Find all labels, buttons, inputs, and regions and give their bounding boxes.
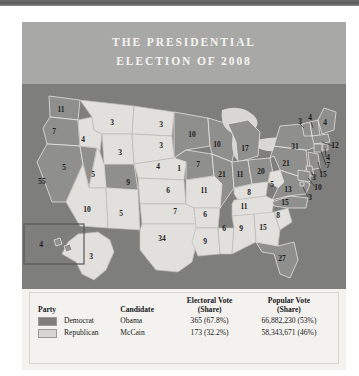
legend-header-popular: Popular Vote (Share): [246, 295, 332, 315]
state-votes-oh: 20: [257, 168, 265, 176]
state-votes-or: 7: [52, 128, 56, 136]
state-votes-mt: 3: [110, 119, 114, 127]
state-votes-md: 10: [314, 184, 322, 192]
legend-header-row: Party Candidate Electoral Vote (Share) P…: [36, 295, 332, 315]
state-votes-ok: 7: [173, 208, 177, 216]
state-votes-nj: 15: [319, 171, 327, 179]
state-votes-ne: 4: [156, 163, 160, 171]
title-line-1: THE PRESIDENTIAL: [112, 36, 256, 48]
state-votes-nc: 15: [281, 199, 289, 207]
state-md: [298, 170, 310, 182]
state-votes-az: 10: [83, 206, 91, 214]
state-votes-ca: 55: [38, 178, 46, 186]
legend-candidate-obama: Obama: [118, 315, 173, 327]
legend-header-popular-line2: (Share): [277, 305, 301, 314]
legend-popular-republican: 58,343,671 (46%): [246, 327, 332, 339]
democrat-swatch-cell: [36, 315, 62, 327]
legend-popular-democrat: 66,882,230 (53%): [246, 315, 332, 327]
legend-electoral-republican: 173 (32.2%): [173, 327, 246, 339]
legend-party-republican: Republican: [62, 327, 118, 339]
state-votes-ms: 6: [222, 225, 226, 233]
legend-header-electoral-line1: Electoral Vote: [187, 296, 233, 305]
state-votes-ga: 15: [259, 224, 267, 232]
state-votes-hi: 4: [39, 241, 43, 249]
state-votes-la: 9: [203, 238, 207, 246]
state-votes-wi: 10: [213, 141, 221, 149]
state-votes-ny: 31: [291, 143, 299, 151]
state-votes-wy: 3: [118, 149, 122, 157]
figure-header: THE PRESIDENTIAL ELECTION OF 2008: [22, 22, 346, 84]
state-votes-nv: 5: [62, 164, 66, 172]
state-votes-ak: 3: [89, 253, 93, 261]
legend-header-party: Party: [36, 295, 118, 315]
us-states-map: .d{fill:#8f8f8d;stroke:#f0eeea;stroke-wi…: [22, 84, 346, 289]
state-or: [43, 117, 80, 146]
page-title: THE PRESIDENTIAL ELECTION OF 2008: [22, 33, 346, 71]
state-votes-ma: 12: [331, 142, 339, 150]
state-votes-co: 9: [126, 179, 130, 187]
legend-candidate-mccain: McCain: [118, 327, 173, 339]
legend-party-democrat: Democrat: [62, 315, 118, 327]
state-votes-de: 3: [312, 174, 316, 182]
state-votes-me: 4: [323, 119, 327, 127]
state-votes-wa: 11: [57, 106, 64, 114]
title-line-2: ELECTION OF 2008: [22, 52, 346, 71]
state-ks: [138, 178, 186, 204]
state-votes-in: 11: [236, 171, 243, 179]
legend-header-electoral: Electoral Vote (Share): [173, 295, 246, 315]
state-votes-sd: 3: [159, 142, 163, 150]
table-row: Republican McCain 173 (32.2%) 58,343,671…: [36, 327, 332, 339]
state-dc: [300, 182, 304, 186]
state-votes-vt: 3: [298, 118, 302, 126]
state-votes-dc: 3: [308, 194, 312, 202]
state-votes-ct: 7: [326, 162, 330, 170]
state-votes-nm: 5: [119, 210, 123, 218]
election-map-figure: THE PRESIDENTIAL ELECTION OF 2008 .d{fil…: [22, 22, 346, 370]
state-votes-tn: 11: [240, 203, 247, 211]
state-votes-ut: 5: [91, 171, 95, 179]
table-row: Democrat Obama 365 (67.8%) 66,882,230 (5…: [36, 315, 332, 327]
legend-header-electoral-line2: (Share): [198, 305, 222, 314]
state-votes-id: 4: [81, 136, 85, 144]
legend-electoral-democrat: 365 (67.8%): [173, 315, 246, 327]
state-ct: [314, 144, 322, 152]
state-votes-nh: 4: [308, 114, 312, 122]
state-votes-nd: 3: [159, 121, 163, 129]
state-ma: [312, 134, 330, 144]
republican-swatch-cell: [36, 327, 62, 339]
republican-swatch: [38, 329, 57, 338]
state-votes-fl: 27: [278, 255, 286, 263]
legend-header-popular-line1: Popular Vote: [268, 296, 310, 305]
state-votes-wv: 5: [270, 181, 274, 189]
state-votes-va: 13: [284, 186, 292, 194]
state-votes-ia: 7: [196, 161, 200, 169]
state-votes-mn: 10: [188, 131, 196, 139]
state-votes-ne2: 1: [177, 165, 181, 173]
map-panel: .d{fill:#8f8f8d;stroke:#f0eeea;stroke-wi…: [22, 84, 346, 289]
state-votes-ky: 8: [247, 189, 251, 197]
state-votes-pa: 21: [282, 160, 290, 168]
state-votes-sc: 8: [276, 212, 280, 220]
legend-table: Party Candidate Electoral Vote (Share) P…: [36, 295, 332, 339]
state-co: [104, 164, 138, 190]
state-votes-il: 21: [218, 171, 226, 179]
page-top-rule: [0, 0, 359, 6]
state-votes-ar: 6: [203, 211, 207, 219]
democrat-swatch: [38, 317, 57, 326]
state-votes-tx: 34: [158, 235, 166, 243]
state-votes-al: 9: [239, 225, 243, 233]
state-votes-ks: 6: [166, 187, 170, 195]
figure-legend: Party Candidate Electoral Vote (Share) P…: [22, 289, 346, 370]
state-ok: [140, 204, 196, 224]
legend-header-candidate: Candidate: [118, 295, 173, 315]
state-votes-mo: 11: [200, 187, 207, 195]
state-votes-mi: 17: [241, 145, 249, 153]
